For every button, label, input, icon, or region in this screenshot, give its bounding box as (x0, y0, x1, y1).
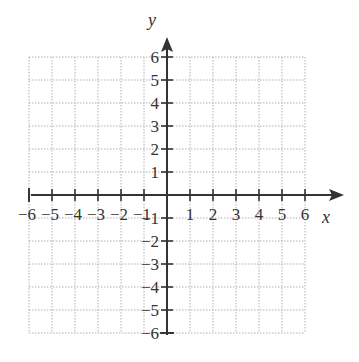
y-tick-label: 6 (151, 48, 160, 67)
y-tick-label: 5 (151, 71, 160, 90)
x-tick-label: −6 (18, 205, 36, 224)
x-tick-label: 6 (301, 205, 310, 224)
x-tick-label: 3 (232, 205, 241, 224)
y-tick-label: 3 (151, 117, 160, 136)
x-tick-label: 1 (186, 205, 195, 224)
axes (31, 37, 344, 335)
y-tick-label: −2 (141, 232, 159, 251)
x-tick-label: 2 (209, 205, 218, 224)
x-tick-label: −3 (87, 205, 105, 224)
y-tick-label: −4 (141, 278, 160, 297)
y-tick-label: 1 (151, 163, 160, 182)
x-tick-label: −5 (41, 205, 59, 224)
y-tick-label: 2 (151, 140, 160, 159)
y-axis-label: y (146, 10, 156, 30)
x-tick-label: −4 (64, 205, 83, 224)
x-tick-label: 5 (278, 205, 287, 224)
y-tick-label: −3 (141, 255, 159, 274)
x-tick-label: −2 (110, 205, 128, 224)
y-tick-label: −5 (141, 301, 159, 320)
coordinate-plane: −6−5−4−3−2−1123456654321−1−2−3−4−5−6 x y (0, 0, 359, 362)
y-tick-label: 4 (151, 94, 160, 113)
y-tick-label: −1 (141, 209, 159, 228)
x-tick-label: 4 (255, 205, 264, 224)
x-axis-label: x (321, 207, 330, 227)
y-tick-label: −6 (141, 324, 159, 343)
